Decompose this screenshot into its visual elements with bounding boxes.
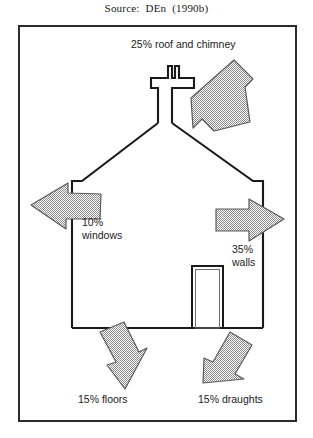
label-draughts: 15% draughts [198, 393, 263, 406]
label-floors: 15% floors [78, 393, 128, 406]
house-heat-loss-diagram [0, 0, 313, 438]
label-walls: 35% walls [232, 243, 255, 269]
arrow-roof-and-chimney [191, 60, 253, 131]
arrow-floors [100, 322, 147, 389]
label-roof-and-chimney: 25% roof and chimney [131, 38, 235, 51]
roof-left-slope [72, 123, 158, 196]
arrow-draughts [203, 332, 252, 383]
chimney [151, 66, 194, 123]
arrow-walls [216, 199, 284, 241]
roof-right-slope [172, 123, 263, 198]
label-windows: 10% windows [82, 216, 122, 242]
door [192, 266, 223, 328]
